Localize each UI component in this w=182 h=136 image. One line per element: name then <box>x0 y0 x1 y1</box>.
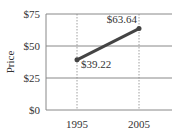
x-axis-tick-labels: 19952005 <box>66 118 151 130</box>
y-axis-tick-labels: $0$25$50$75 <box>24 8 41 116</box>
x-tick-label: 1995 <box>66 118 89 130</box>
y-tick-label: $0 <box>29 104 41 116</box>
price-line <box>77 29 139 60</box>
x-tick-label: 2005 <box>128 118 151 130</box>
data-label-1995: $39.22 <box>81 58 111 70</box>
data-point-marker <box>75 57 80 62</box>
data-point-marker <box>137 26 142 31</box>
y-tick-label: $75 <box>24 8 41 20</box>
y-tick-label: $25 <box>24 72 41 84</box>
y-tick-label: $50 <box>24 40 41 52</box>
data-labels: $39.22$63.64 <box>81 13 138 70</box>
price-line-chart: $0$25$50$75 19952005 Price $39.22$63.64 <box>0 0 182 136</box>
y-axis-label: Price <box>4 51 16 74</box>
data-label-2005: $63.64 <box>107 13 138 25</box>
